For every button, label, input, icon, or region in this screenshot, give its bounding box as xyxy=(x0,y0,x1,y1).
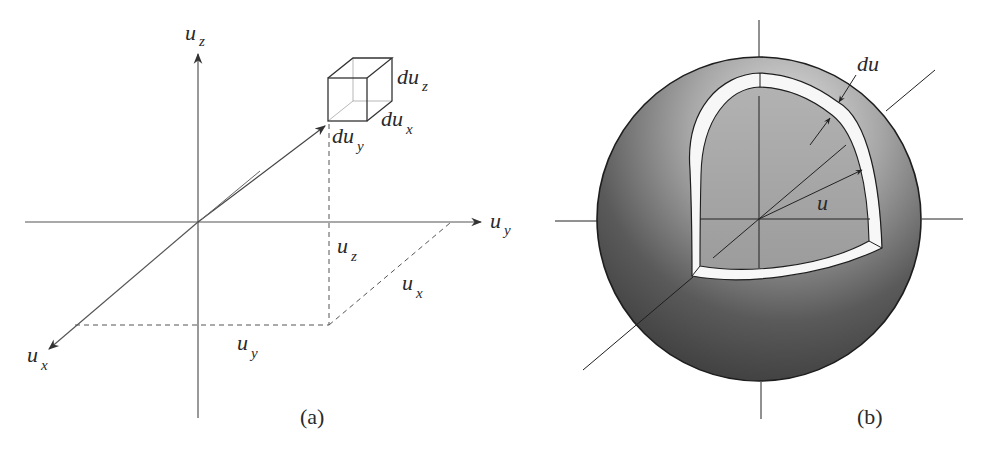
ux-axis xyxy=(49,222,198,349)
cube-label-duz: duz xyxy=(397,64,428,94)
ux-axis-label: ux xyxy=(27,342,48,373)
radius-label-u: u xyxy=(817,190,828,215)
velocity-vector xyxy=(198,126,325,222)
projection-label-uz: uz xyxy=(337,233,357,264)
cube-label-duy: duy xyxy=(332,123,364,154)
panel-b: u du (b) xyxy=(555,20,963,429)
uy-axis-label: uy xyxy=(490,208,511,238)
projection-label-ux: ux xyxy=(402,270,423,301)
projection-label-uy: uy xyxy=(237,330,258,361)
figure-canvas: uz uy ux duz dux duy uz ux uy (a) xyxy=(0,0,985,459)
uz-axis-label: uz xyxy=(185,20,205,49)
shell-thickness-label-du: du xyxy=(857,51,879,76)
cube-label-dux: dux xyxy=(381,106,413,137)
vector-accent-line xyxy=(202,171,260,219)
panel-a-caption: (a) xyxy=(300,404,324,429)
sphere-axis-diagonal-upper xyxy=(886,70,935,111)
panel-a: uz uy ux duz dux duy uz ux uy (a) xyxy=(25,20,511,429)
panel-b-caption: (b) xyxy=(857,404,883,429)
